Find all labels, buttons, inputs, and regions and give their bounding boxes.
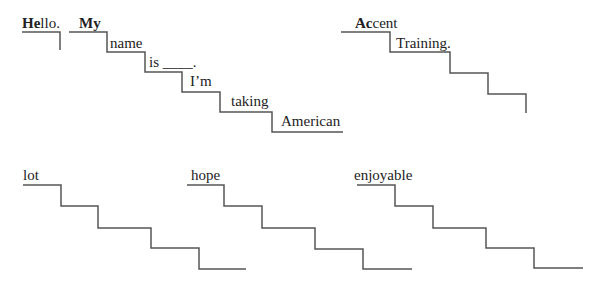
word-accent-training-1: Training. [396,36,451,51]
word-text: llo. [40,15,60,31]
word-hello-0: Hello. [22,16,60,31]
word-text: hope [191,167,220,183]
word-my-name-is-1: name [110,36,142,51]
stair-line-lot [23,185,246,269]
word-text: I’m [190,73,212,89]
stair-line-hope [187,185,412,269]
word-text: taking [231,93,269,109]
word-text: name [110,35,142,51]
word-text: lot [23,167,39,183]
stressed-syllable: Ac [355,15,373,31]
word-text: cent [373,15,398,31]
word-text: American [281,113,340,129]
staircase-diagram [0,0,603,285]
word-accent-training-0: Accent [355,16,397,31]
word-text: Training. [396,35,451,51]
word-hope-0: hope [191,168,220,183]
word-my-name-is-0: My [79,16,101,31]
stair-line-hello [22,32,60,50]
word-my-name-is-3: I’m [190,74,212,89]
word-my-name-is-5: American [281,114,340,129]
stair-line-enjoyable [357,185,583,268]
stressed-syllable: He [22,15,40,31]
word-text: is ____. [149,54,197,70]
word-lot-0: lot [23,168,39,183]
stressed-syllable: My [79,15,101,31]
word-my-name-is-4: taking [231,94,269,109]
word-text: enjoyable [354,167,412,183]
word-my-name-is-2: is ____. [149,55,197,70]
word-enjoyable-0: enjoyable [354,168,412,183]
